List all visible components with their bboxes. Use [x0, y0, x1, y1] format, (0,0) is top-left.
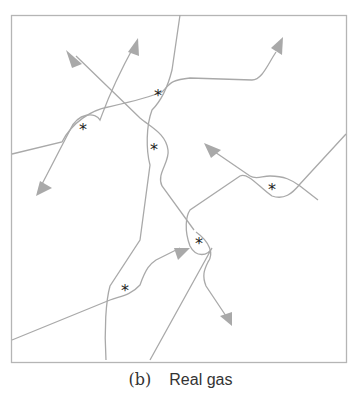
trajectory-6 [150, 134, 346, 360]
arrowhead-bottom-left [36, 181, 52, 196]
arrowhead-right-upper [204, 143, 221, 158]
trajectory-1 [12, 52, 276, 154]
arrowhead-center [174, 248, 190, 260]
figure-caption: (b) Real gas [0, 370, 361, 389]
collision-marker: * [268, 180, 276, 199]
caption-label: (b) [129, 370, 152, 389]
arrowhead-bottom-right [220, 312, 232, 326]
collision-marker: * [154, 86, 162, 105]
trajectory-5 [12, 248, 180, 340]
trajectory-3 [105, 15, 180, 360]
real-gas-diagram: * * * * * * [0, 0, 361, 365]
caption-text: Real gas [169, 371, 232, 388]
trajectory-4 [76, 56, 194, 230]
collision-marker: * [79, 120, 87, 139]
collision-marker: * [121, 281, 129, 300]
arrowhead-top-right [271, 37, 283, 55]
trajectory-7 [212, 150, 318, 200]
collision-marker: * [150, 140, 158, 159]
collision-marker: * [195, 234, 203, 253]
